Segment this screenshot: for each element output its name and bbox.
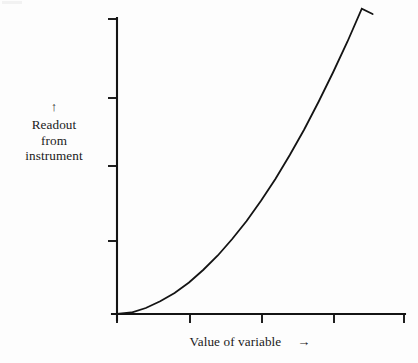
- response-curve: [117, 9, 373, 314]
- plot-canvas: [0, 0, 418, 363]
- y-axis-label: ↑ Readout from instrument: [4, 98, 104, 164]
- y-axis-arrow-up-icon: ↑: [4, 98, 104, 115]
- x-axis-label-text: Value of variable: [190, 334, 282, 349]
- x-axis-label: Value of variable→: [150, 334, 350, 350]
- y-axis-label-line-3: instrument: [4, 148, 104, 164]
- y-axis-label-line-2: from: [4, 133, 104, 149]
- x-axis-arrow-right-icon: →: [297, 334, 310, 350]
- figure-container: ↑ Readout from instrument Value of varia…: [0, 0, 418, 363]
- y-axis-label-line-1: Readout: [4, 117, 104, 133]
